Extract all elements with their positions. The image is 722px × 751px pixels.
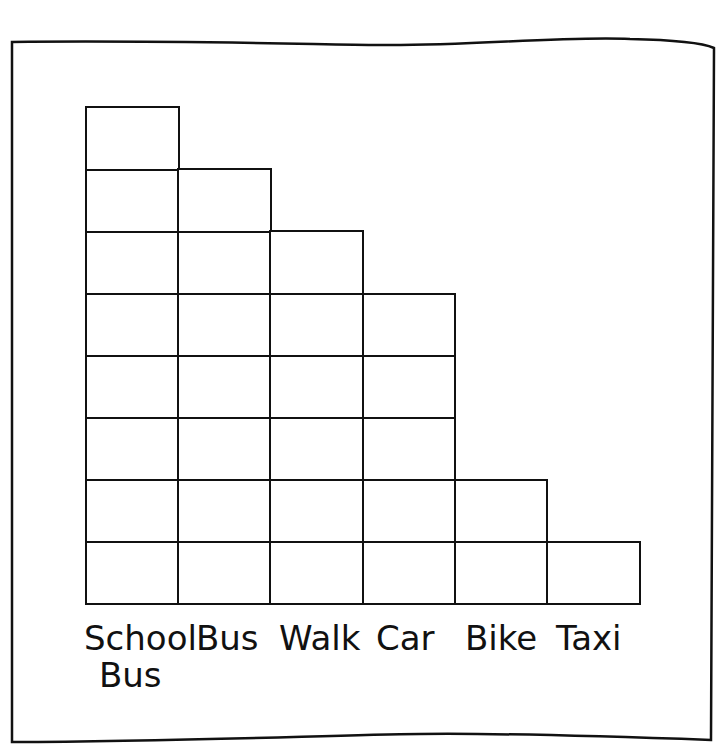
bar-unit-square	[85, 293, 180, 358]
bar-unit-square	[85, 106, 180, 171]
bar-unit-square	[85, 479, 180, 544]
bar-unit-square	[546, 541, 641, 606]
bar-unit-square	[177, 541, 272, 606]
bar-unit-square	[177, 355, 272, 420]
bar-unit-square	[269, 417, 364, 482]
bar-unit-square	[269, 479, 364, 544]
x-label-school-bus-line2: Bus	[99, 657, 162, 693]
bar-unit-square	[269, 293, 364, 358]
bar-unit-square	[362, 293, 457, 358]
bar-unit-square	[177, 230, 272, 295]
x-label-bus: Bus	[196, 620, 259, 656]
bar-unit-square	[362, 417, 457, 482]
bar-unit-square	[85, 355, 180, 420]
bar-unit-square	[177, 479, 272, 544]
x-label-bike: Bike	[465, 620, 537, 656]
bar-unit-square	[85, 541, 180, 606]
bar-unit-square	[269, 541, 364, 606]
bar-unit-square	[454, 541, 549, 606]
x-label-taxi: Taxi	[556, 620, 622, 656]
bar-unit-square	[269, 230, 364, 295]
bar-unit-square	[85, 230, 180, 295]
bar-unit-square	[269, 355, 364, 420]
bar-unit-square	[454, 479, 549, 544]
x-label-school-bus-line1: School	[84, 620, 197, 656]
bar-unit-square	[362, 479, 457, 544]
bar-unit-square	[177, 417, 272, 482]
bar-unit-square	[85, 168, 180, 233]
bar-unit-square	[362, 541, 457, 606]
x-label-car: Car	[376, 620, 435, 656]
bar-unit-square	[177, 293, 272, 358]
bar-unit-square	[85, 417, 180, 482]
bar-unit-square	[362, 355, 457, 420]
x-label-walk: Walk	[279, 620, 360, 656]
bar-unit-square	[177, 168, 272, 233]
